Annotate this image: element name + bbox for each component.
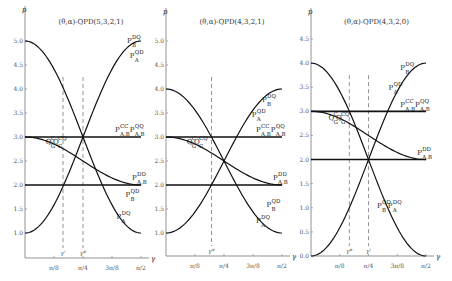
svg-text:A: A xyxy=(134,57,140,63)
y-tick-label: 2.0 xyxy=(13,181,23,188)
curve-label: PQDA xyxy=(130,49,145,63)
chart-panel-3: pγ(θ,α)-QPD(4,3,2,0)0.00.51.01.52.02.53.… xyxy=(299,8,441,269)
x-axis-label: γ xyxy=(436,253,441,261)
y-tick-label: 2.0 xyxy=(154,181,164,188)
curve-label: PDDA,B xyxy=(273,171,288,185)
svg-text:A,B: A,B xyxy=(277,179,288,185)
y-tick-label: 1.0 xyxy=(154,229,164,236)
curve-label: PDQA xyxy=(388,199,402,213)
y-tick-label: 2.0 xyxy=(299,156,309,163)
svg-text:DQ: DQ xyxy=(405,61,414,67)
svg-text:A,B: A,B xyxy=(275,131,286,137)
svg-text:DQ: DQ xyxy=(132,34,141,40)
curve-label: PQDA xyxy=(389,81,404,95)
x-tick-label: 3π/8 xyxy=(105,264,119,271)
svg-text:G: G xyxy=(341,119,345,125)
y-tick-label: 4.0 xyxy=(13,85,23,92)
svg-text:A,B: A,B xyxy=(404,106,415,112)
y-tick-label: 1.5 xyxy=(154,205,164,212)
x-tick-label: 3π/8 xyxy=(246,262,260,269)
curve-label: PDQB xyxy=(262,93,276,107)
svg-text:G: G xyxy=(58,143,62,149)
svg-text:B: B xyxy=(132,42,136,48)
x-tick-label: π/2 xyxy=(136,264,146,271)
y-tick-label: 3.5 xyxy=(154,109,164,116)
x-axis-label: γ xyxy=(292,253,297,261)
curve-label: PQQA,B xyxy=(130,123,145,137)
series-line xyxy=(166,137,282,185)
y-tick-label: 5.0 xyxy=(154,37,164,44)
chart-canvas: pγ(θ,α)-QPD(5,3,2,1)1.01.52.02.53.03.54.… xyxy=(0,0,452,281)
y-tick-label: 2.5 xyxy=(154,157,164,164)
svg-text:DD: DD xyxy=(137,171,146,177)
svg-text:CC: CC xyxy=(261,123,269,129)
y-tick-label: 3.5 xyxy=(299,83,309,90)
svg-text:DQ: DQ xyxy=(267,93,276,99)
y-tick-label: 4.5 xyxy=(13,61,23,68)
chart-panel-1: pγ(θ,α)-QPD(5,3,2,1)1.01.52.02.53.03.54.… xyxy=(13,6,156,271)
x-axis-label: γ xyxy=(151,255,156,263)
y-axis-label: p xyxy=(22,6,27,14)
svg-text:B: B xyxy=(382,207,386,213)
chart-title: (θ,α)-QPD(4,3,2,0) xyxy=(344,18,409,26)
svg-text:CC: CC xyxy=(120,123,128,129)
y-tick-label: 3.0 xyxy=(154,133,164,140)
curve-label: PQDB xyxy=(125,188,140,202)
svg-text:A: A xyxy=(256,116,262,122)
svg-text:A,B: A,B xyxy=(421,154,432,160)
y-tick-label: 3.5 xyxy=(13,109,23,116)
curve-label: PDDA,B xyxy=(132,171,147,185)
svg-text:QQ: QQ xyxy=(276,123,286,129)
y-tick-label: 0.5 xyxy=(299,228,309,235)
svg-text:G: G xyxy=(199,143,203,149)
svg-text:CC: CC xyxy=(405,98,413,104)
svg-text:QQ: QQ xyxy=(420,98,430,104)
svg-text:DQ: DQ xyxy=(261,214,270,220)
svg-text:DD: DD xyxy=(278,171,287,177)
x-tick-label: π/4 xyxy=(364,262,374,269)
svg-text:B: B xyxy=(405,69,409,75)
svg-text:CQ: CQ xyxy=(341,111,350,117)
x-tick-label: π/8 xyxy=(49,264,59,271)
svg-text:A: A xyxy=(121,218,127,224)
gamma-marker-label: γ* xyxy=(208,247,215,255)
svg-text:CQ: CQ xyxy=(199,135,208,141)
svg-text:A,B: A,B xyxy=(134,131,145,137)
y-axis-label: p xyxy=(308,8,313,16)
svg-text:A: A xyxy=(392,207,398,213)
curve-label: QCQG xyxy=(53,135,67,149)
curve-label: PDQA xyxy=(256,214,270,228)
svg-text:B: B xyxy=(271,206,275,212)
x-tick-label: π/8 xyxy=(190,262,200,269)
curve-label: PQDA xyxy=(252,108,267,122)
chart-title: (θ,α)-QPD(4,3,2,1) xyxy=(199,18,264,26)
x-tick-label: π/2 xyxy=(421,262,431,269)
curve-label: QCQG xyxy=(194,135,208,149)
svg-text:QD: QD xyxy=(257,108,267,114)
svg-text:QD: QD xyxy=(394,81,404,87)
chart-title: (θ,α)-QPD(5,3,2,1) xyxy=(58,18,123,26)
y-axis-label: p xyxy=(163,8,168,16)
y-tick-label: 4.0 xyxy=(154,85,164,92)
y-tick-label: 4.5 xyxy=(154,61,164,68)
svg-text:DD: DD xyxy=(422,146,431,152)
y-tick-label: 2.5 xyxy=(299,131,309,138)
y-tick-label: 3.0 xyxy=(299,107,309,114)
y-tick-label: 2.5 xyxy=(13,157,23,164)
x-tick-label: 3π/8 xyxy=(390,262,404,269)
svg-text:A,B: A,B xyxy=(419,106,430,112)
y-tick-label: 5.0 xyxy=(13,37,23,44)
svg-text:A,B: A,B xyxy=(260,131,271,137)
x-tick-label: π/4 xyxy=(78,264,88,271)
svg-text:CQ: CQ xyxy=(58,135,67,141)
figure-three-panels: pγ(θ,α)-QPD(5,3,2,1)1.01.52.02.53.03.54.… xyxy=(0,0,452,281)
curve-label: PQQA,B xyxy=(271,123,286,137)
curve-label: PDQB xyxy=(400,61,414,75)
svg-text:B: B xyxy=(130,196,134,202)
y-tick-label: 0.0 xyxy=(299,252,309,259)
svg-text:QD: QD xyxy=(130,188,140,194)
y-tick-label: 4.0 xyxy=(299,59,309,66)
y-tick-label: 4.5 xyxy=(299,35,309,42)
svg-text:B: B xyxy=(267,101,271,107)
gamma-marker-label: γ* xyxy=(80,249,87,257)
